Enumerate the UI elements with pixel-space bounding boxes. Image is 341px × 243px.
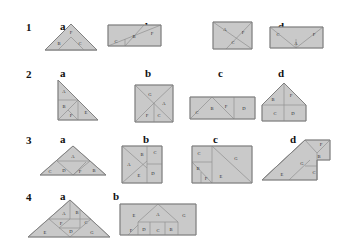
piece-label: B <box>57 41 60 46</box>
figure-2d: B F C D <box>262 83 308 123</box>
row-number-3: 3 <box>26 135 32 146</box>
figure-2c: C B F D <box>190 97 256 121</box>
piece-label: B <box>62 104 65 109</box>
figure-1d: C A F <box>270 27 324 49</box>
piece-label: E <box>138 173 141 178</box>
col-letter-2c: c <box>218 68 223 79</box>
puzzle-sheet: 1 a b c d F B C C B F <box>0 0 341 243</box>
piece-label: B <box>140 152 143 157</box>
col-letter-2b: b <box>145 68 151 79</box>
piece-label: B <box>317 154 320 159</box>
piece-label: C <box>157 113 160 118</box>
piece-label: E <box>44 230 47 235</box>
figure-3c: C G B F E <box>192 146 254 184</box>
piece-label: C <box>276 32 279 37</box>
piece-label: B <box>92 168 95 173</box>
piece-label: E <box>220 174 223 179</box>
piece-label: B <box>132 34 135 39</box>
piece-label: F <box>146 113 149 118</box>
figure-2b: G A F C <box>135 85 175 123</box>
piece-label: C <box>156 228 159 233</box>
piece-label: C <box>114 39 117 44</box>
row-number-2: 2 <box>26 69 32 80</box>
figure-4b: E A G F D C B <box>120 204 198 237</box>
piece-label: C <box>197 151 200 156</box>
col-letter-3a: a <box>60 134 66 145</box>
piece-label: B <box>271 97 274 102</box>
figure-3d: F B G C E <box>262 140 332 182</box>
figure-3b: B C A E D <box>122 146 164 184</box>
figure-4a: A B C F D E G <box>28 200 112 238</box>
piece-label: F <box>151 31 154 36</box>
row-number-1: 1 <box>26 22 32 33</box>
col-letter-3c: c <box>213 134 218 145</box>
piece-label: F <box>313 32 316 37</box>
piece-label: F <box>320 142 323 147</box>
piece-label: C <box>231 40 234 45</box>
piece-label: F <box>225 104 228 109</box>
piece-label: E <box>281 172 284 177</box>
col-letter-3b: b <box>143 134 149 145</box>
figure-1b: C B F <box>108 25 162 47</box>
piece-label: C <box>273 111 276 116</box>
piece-label: F <box>60 221 63 226</box>
piece-label: B <box>196 166 199 171</box>
col-letter-2a: a <box>60 68 66 79</box>
piece-label: B <box>210 106 213 111</box>
piece-label: E <box>85 110 88 115</box>
piece-label: F <box>70 30 73 35</box>
piece-label: E <box>133 213 136 218</box>
figure-2a: A B F E <box>58 80 108 121</box>
piece-label: C <box>195 110 198 115</box>
piece-label: F <box>70 113 73 118</box>
figure-1c: A F C <box>213 22 253 50</box>
piece-label: F <box>205 176 208 181</box>
piece-label: B <box>169 227 172 232</box>
figure-3a: A C D F B <box>40 146 108 176</box>
col-letter-2d: d <box>278 68 284 79</box>
piece-label: C <box>312 170 315 175</box>
piece-label: F <box>130 228 133 233</box>
piece-label: F <box>290 93 293 98</box>
piece-label: C <box>48 169 51 174</box>
col-letter-4b: b <box>113 191 119 202</box>
piece-label: F <box>242 30 245 35</box>
piece-label: B <box>75 210 78 215</box>
piece-label: C <box>84 220 87 225</box>
piece-label: C <box>78 41 81 46</box>
piece-label: F <box>79 169 82 174</box>
piece-label: C <box>153 150 156 155</box>
figure-1a: F B C <box>38 24 102 50</box>
